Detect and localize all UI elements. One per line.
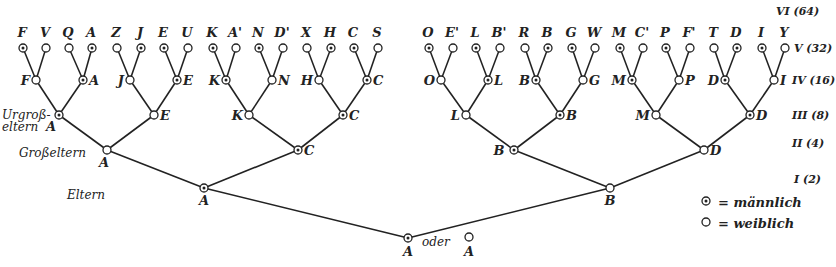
tree-edge [476, 48, 488, 80]
tree-edge [226, 48, 236, 80]
male-node-dot [513, 149, 516, 152]
tree-edge [164, 48, 177, 80]
ancestor-label: R [518, 25, 530, 40]
tree-edge [259, 48, 272, 80]
tree-edge [130, 80, 154, 115]
legend-female-label: = weiblich [718, 216, 794, 231]
ancestor-label: M [635, 108, 651, 123]
ancestor-label: I [757, 25, 765, 40]
ancestor-label: F [20, 73, 31, 88]
female-node [113, 44, 121, 52]
ancestor-label: T [708, 25, 719, 40]
ancestor-label: U [181, 25, 193, 40]
ancestor-label: F [16, 25, 27, 40]
tree-edge [572, 48, 583, 80]
female-node [686, 44, 694, 52]
ancestor-label: B [604, 193, 616, 208]
ancestor-label: H [323, 25, 337, 40]
male-node-dot [212, 47, 215, 50]
tree-edge [408, 188, 610, 238]
ancestor-label: P [659, 25, 671, 40]
ancestor-label: F' [681, 25, 695, 40]
legend-male-label: = männlich [718, 195, 802, 210]
tree-edge [466, 80, 488, 115]
female-node [521, 44, 529, 52]
ancestor-label: C' [635, 25, 649, 40]
ancestor-label: N [251, 25, 265, 40]
male-node-dot [619, 47, 622, 50]
tree-edge [354, 48, 367, 80]
ancestor-label: D [707, 73, 720, 88]
male-node-dot [475, 47, 478, 50]
ancestor-label: A [84, 25, 96, 40]
tree-edge [107, 150, 204, 188]
female-node [591, 44, 599, 52]
ancestor-label: W [587, 25, 603, 40]
ancestor-label: G [589, 73, 600, 88]
generation-label-v: V (32) [794, 42, 832, 55]
female-node [675, 76, 683, 84]
male-node-dot [297, 149, 300, 152]
ancestor-label: D' [273, 25, 289, 40]
ancestor-label: L [493, 73, 503, 88]
female-node [32, 76, 40, 84]
male-node-dot [631, 79, 634, 82]
generation-label-i: I (2) [793, 173, 821, 186]
eltern-label: Eltern [66, 188, 105, 202]
female-node [639, 44, 647, 52]
tree-edge [204, 150, 298, 188]
female-node [437, 76, 445, 84]
tree-edge [319, 80, 343, 115]
male-node-dot [58, 114, 61, 117]
female-node [579, 76, 587, 84]
male-node-dot [761, 47, 764, 50]
female-node [232, 44, 240, 52]
ancestor-label: L [469, 25, 479, 40]
ancestor-label: I [779, 73, 787, 88]
ancestor-label: B [493, 143, 505, 158]
male-node-dot [535, 79, 538, 82]
tree-edge [466, 115, 514, 150]
ancestor-label: E [157, 25, 169, 40]
female-node [606, 184, 614, 192]
female-node [279, 44, 287, 52]
male-node-dot [665, 47, 668, 50]
male-node-dot [736, 47, 739, 50]
female-node [245, 111, 253, 119]
ancestor-label: B [541, 25, 553, 40]
tree-edge [107, 115, 154, 150]
ancestor-label: A' [226, 25, 242, 40]
tree-edge [762, 48, 774, 80]
ancestor-label: P [684, 73, 696, 88]
tree-edge [59, 115, 107, 150]
tree-edge [36, 48, 46, 80]
male-node-dot [571, 47, 574, 50]
legend-female-icon [702, 218, 710, 226]
male-node-dot [428, 47, 431, 50]
female-node [770, 76, 778, 84]
tree-edge [536, 48, 548, 80]
tree-edge [249, 80, 272, 115]
tree-edge [725, 80, 750, 115]
ancestor-label: K [231, 108, 244, 123]
ancestor-label: C [304, 143, 315, 158]
male-node-dot [22, 47, 25, 50]
male-node-dot [724, 79, 727, 82]
female-node [652, 111, 660, 119]
male-node-dot [330, 47, 333, 50]
ancestor-label: E [159, 108, 171, 123]
ancestor-label: C [349, 108, 360, 123]
female-node [65, 44, 73, 52]
tree-edge [204, 188, 408, 238]
ancestor-label: M [611, 25, 627, 40]
ancestor-label: A [401, 244, 413, 259]
ancestor-label: E [182, 73, 194, 88]
female-node [315, 76, 323, 84]
male-node-dot [342, 114, 345, 117]
ancestor-label: E' [444, 25, 459, 40]
tree-edge [69, 48, 83, 80]
ancestor-label: X [300, 25, 312, 40]
female-node [303, 44, 311, 52]
female-node [42, 44, 50, 52]
ancestor-label: S [372, 25, 381, 40]
